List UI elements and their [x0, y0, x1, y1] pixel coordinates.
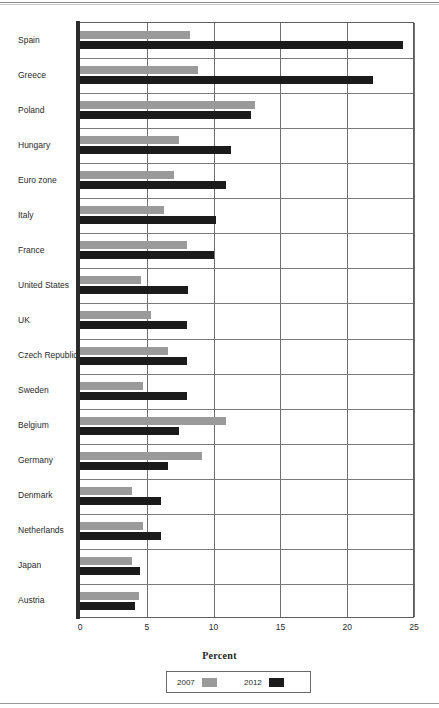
bar-austria-2007 [80, 592, 139, 600]
bar-czech-republic-2012 [80, 357, 187, 365]
category-label-netherlands: Netherlands [0, 525, 76, 535]
x-tick-5: 5 [144, 622, 149, 632]
plot-area [80, 22, 414, 618]
bar-japan-2012 [80, 567, 140, 575]
bar-united-states-2012 [80, 286, 188, 294]
category-label-japan: Japan [0, 560, 76, 570]
row-separator [80, 198, 413, 199]
row-separator [80, 58, 413, 59]
legend-label-2007: 2007 [177, 678, 195, 688]
bar-poland-2007 [80, 101, 255, 109]
row-separator [80, 479, 413, 480]
gridline-15 [280, 23, 281, 617]
row-separator [80, 584, 413, 585]
bar-greece-2012 [80, 76, 373, 84]
bar-france-2007 [80, 241, 187, 249]
row-separator [80, 93, 413, 94]
bar-germany-2012 [80, 462, 168, 470]
bar-euro-zone-2007 [80, 171, 174, 179]
bar-sweden-2012 [80, 392, 187, 400]
legend-swatch-2007 [202, 678, 217, 687]
row-separator [80, 233, 413, 234]
bar-japan-2007 [80, 557, 132, 565]
bar-austria-2012 [80, 602, 135, 610]
x-tick-10: 10 [209, 622, 218, 632]
bar-spain-2007 [80, 31, 190, 39]
category-label-sweden: Sweden [0, 385, 76, 395]
bar-italy-2007 [80, 206, 164, 214]
category-label-denmark: Denmark [0, 490, 76, 500]
bar-greece-2007 [80, 66, 198, 74]
bar-france-2012 [80, 251, 214, 259]
row-separator [80, 549, 413, 550]
page-bottom-rule [0, 703, 439, 704]
x-tick-15: 15 [276, 622, 285, 632]
x-tick-20: 20 [342, 622, 351, 632]
category-label-germany: Germany [0, 455, 76, 465]
legend-label-2012: 2012 [244, 678, 262, 688]
category-label-uk: UK [0, 315, 76, 325]
category-label-united-states: United States [0, 280, 76, 290]
row-separator [80, 374, 413, 375]
row-separator [80, 339, 413, 340]
x-tick-0: 0 [78, 622, 83, 632]
bar-germany-2007 [80, 452, 202, 460]
bar-denmark-2007 [80, 487, 132, 495]
category-label-poland: Poland [0, 105, 76, 115]
category-label-hungary: Hungary [0, 140, 76, 150]
category-label-greece: Greece [0, 70, 76, 80]
row-separator [80, 163, 413, 164]
grouped-bar-chart: SpainGreecePolandHungaryEuro zoneItalyFr… [0, 0, 439, 708]
gridline-20 [347, 23, 348, 617]
category-label-czech-republic: Czech Republic [0, 350, 76, 360]
bar-euro-zone-2012 [80, 181, 226, 189]
category-label-austria: Austria [0, 595, 76, 605]
category-label-france: France [0, 245, 76, 255]
row-separator [80, 128, 413, 129]
bar-czech-republic-2007 [80, 347, 168, 355]
bar-belgium-2012 [80, 427, 179, 435]
bar-netherlands-2007 [80, 522, 143, 530]
chart-page: SpainGreecePolandHungaryEuro zoneItalyFr… [0, 0, 439, 708]
bar-poland-2012 [80, 111, 251, 119]
bar-hungary-2012 [80, 146, 231, 154]
gridline-25 [414, 23, 415, 617]
row-separator [80, 444, 413, 445]
row-separator [80, 409, 413, 410]
row-separator [80, 268, 413, 269]
category-label-spain: Spain [0, 35, 76, 45]
chart-legend: 2007 2012 [166, 671, 311, 693]
x-axis-title: Percent [0, 650, 439, 661]
bar-sweden-2007 [80, 382, 143, 390]
legend-swatch-2012 [269, 678, 284, 687]
legend-item-2012: 2012 [244, 676, 284, 689]
category-label-italy: Italy [0, 210, 76, 220]
category-label-euro-zone: Euro zone [0, 175, 76, 185]
bar-hungary-2007 [80, 136, 179, 144]
legend-item-2007: 2007 [177, 676, 217, 689]
row-separator [80, 514, 413, 515]
x-tick-25: 25 [409, 622, 418, 632]
bar-italy-2012 [80, 216, 216, 224]
bar-denmark-2012 [80, 497, 161, 505]
bar-belgium-2007 [80, 417, 226, 425]
bar-united-states-2007 [80, 276, 141, 284]
category-label-belgium: Belgium [0, 420, 76, 430]
row-separator [80, 303, 413, 304]
bar-uk-2012 [80, 321, 187, 329]
bar-uk-2007 [80, 311, 151, 319]
bar-spain-2012 [80, 41, 403, 49]
bar-netherlands-2012 [80, 532, 161, 540]
